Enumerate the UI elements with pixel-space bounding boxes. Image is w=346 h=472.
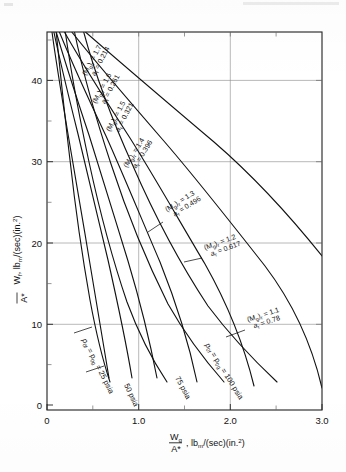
x-axis-units-rest: /(sec)(in. [203, 438, 238, 448]
svg-text:, lbm/(sec)(in.2): , lbm/(sec)(in.2) [186, 437, 245, 449]
y-tick-labels: 0 10 20 30 40 [31, 75, 42, 411]
svg-text:Wf, lbm/(sec)(in.2): Wf, lbm/(sec)(in.2) [11, 216, 23, 285]
svg-text:Wg: Wg [170, 432, 183, 443]
scan-speck-top-right [243, 2, 339, 5]
y-tick-20: 20 [31, 238, 42, 249]
y-axis-den: A* [19, 293, 29, 303]
y-axis-units: , lb [12, 262, 22, 274]
figure-container: 0 10 20 30 40 0 1.0 2.0 3.0 Wf, lbm/(sec… [0, 0, 346, 472]
x-tick-labels: 0 1.0 2.0 3.0 [44, 415, 328, 426]
x-tick-3: 3.0 [315, 415, 328, 426]
y-axis-title: Wf, lbm/(sec)(in.2) A* [11, 216, 29, 304]
y-axis-units-close: ) [12, 216, 22, 219]
y-tick-30: 30 [31, 156, 42, 167]
y-tick-10: 10 [31, 319, 42, 330]
y-tick-40: 40 [31, 75, 42, 86]
x-axis-title: , lbm/(sec)(in.2) Wg A* [169, 432, 245, 454]
y-tick-0: 0 [37, 400, 42, 411]
x-tick-2: 2.0 [224, 415, 237, 426]
x-tick-0: 0 [44, 415, 49, 426]
x-axis-den: A* [171, 444, 181, 454]
x-axis-num-sub: g [179, 436, 183, 443]
y-axis-units-rest: /(sec)(in. [12, 222, 22, 257]
chart-svg: 0 10 20 30 40 0 1.0 2.0 3.0 Wf, lbm/(sec… [0, 0, 346, 472]
x-axis-units: , lb [186, 438, 198, 448]
x-axis-units-close: ) [242, 438, 245, 448]
scan-speck-top-left [4, 3, 13, 6]
x-tick-1: 1.0 [132, 415, 145, 426]
